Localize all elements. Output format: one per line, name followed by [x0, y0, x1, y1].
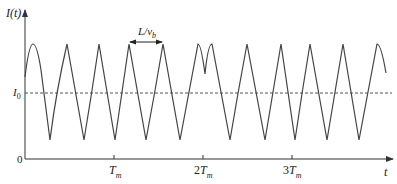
current-curve: [25, 44, 386, 140]
tick-label-2tm: 2Tm: [194, 163, 213, 180]
tick-label-tm: Tm: [109, 163, 122, 180]
origin-label: 0: [17, 153, 23, 165]
reference-label-i0: I0: [12, 86, 21, 101]
chart-canvas: I(t) t 0 I0 L/vb Tm 2Tm 3Tm: [0, 0, 397, 184]
x-axis-label: t: [384, 165, 388, 179]
annotation-label: L/vb: [137, 25, 156, 40]
y-axis-label: I(t): [5, 6, 21, 20]
tick-label-3tm: 3Tm: [283, 163, 302, 180]
